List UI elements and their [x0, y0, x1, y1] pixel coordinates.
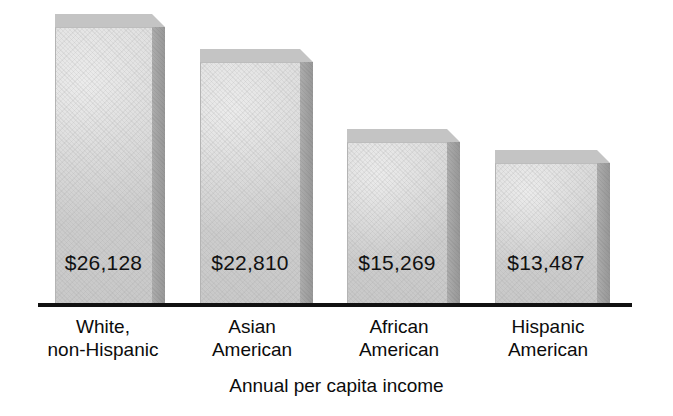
category-label-3: African American [329, 315, 469, 361]
bar-top-face-2 [200, 49, 313, 62]
bar-top-face-1 [55, 14, 165, 27]
category-label-1-line2: non-Hispanic [33, 338, 173, 361]
category-label-4-line1: Hispanic [478, 315, 618, 338]
bar-side-face-3 [447, 142, 460, 305]
x-axis-title: Annual per capita income [0, 375, 673, 397]
category-label-1-line1: White, [33, 315, 173, 338]
bar-value-4: $13,487 [495, 251, 597, 275]
bar-value-2: $22,810 [200, 251, 300, 275]
category-label-2-line2: American [182, 338, 322, 361]
x-axis-line [38, 303, 632, 307]
bar-side-face-2 [300, 62, 313, 305]
bar-front-face-3 [347, 142, 447, 305]
category-label-4: Hispanic American [478, 315, 618, 361]
bar-group-4: $13,487 [495, 163, 597, 305]
bar-value-1: $26,128 [55, 251, 152, 275]
bar-group-1: $26,128 [55, 27, 152, 305]
bar-side-face-4 [597, 163, 610, 305]
bar-group-3: $15,269 [347, 142, 447, 305]
category-label-3-line2: American [329, 338, 469, 361]
bar-group-2: $22,810 [200, 62, 300, 305]
bar-top-face-3 [347, 129, 460, 142]
bar-chart: $26,128 $22,810 $15,269 $13,487 White, n… [0, 0, 673, 416]
category-label-2: Asian American [182, 315, 322, 361]
category-label-1: White, non-Hispanic [33, 315, 173, 361]
bar-side-face-1 [152, 27, 165, 305]
bar-front-face-4 [495, 163, 597, 305]
category-label-3-line1: African [329, 315, 469, 338]
category-label-2-line1: Asian [182, 315, 322, 338]
bar-value-3: $15,269 [347, 251, 447, 275]
category-label-4-line2: American [478, 338, 618, 361]
bar-top-face-4 [495, 150, 610, 163]
